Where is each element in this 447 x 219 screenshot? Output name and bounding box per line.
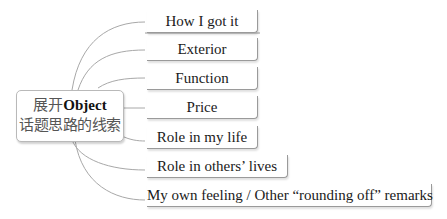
link-role-in-my-life: [122, 136, 145, 141]
branch-label: How I got it: [166, 13, 239, 29]
root-subtitle: 话题思路的线索: [17, 115, 123, 135]
branch-label: My own feeling / Other “rounding off” re…: [147, 187, 433, 203]
root-topic[interactable]: 展开Object 话题思路的线索: [16, 90, 124, 142]
branch-function[interactable]: Function: [147, 67, 258, 90]
link-exterior: [78, 50, 145, 90]
mind-map: 展开Object 话题思路的线索 How I got it Exterior F…: [0, 0, 447, 219]
branch-label: Role in others’ lives: [157, 158, 277, 174]
branch-label: Function: [175, 70, 228, 86]
root-bold: Object: [63, 97, 106, 113]
branch-own-feeling[interactable]: My own feeling / Other “rounding off” re…: [147, 184, 432, 207]
branch-role-in-others-lives[interactable]: Role in others’ lives: [147, 155, 288, 178]
branch-exterior[interactable]: Exterior: [147, 38, 258, 61]
link-function: [98, 78, 145, 88]
branch-label: Exterior: [177, 41, 226, 57]
root-prefix: 展开: [33, 97, 63, 113]
branch-price[interactable]: Price: [147, 96, 258, 119]
branch-label: Price: [187, 99, 218, 115]
branch-role-in-my-life[interactable]: Role in my life: [147, 126, 258, 149]
branch-label: Role in my life: [157, 129, 247, 145]
branch-how-i-got-it[interactable]: How I got it: [147, 10, 258, 33]
link-price: [122, 100, 145, 108]
